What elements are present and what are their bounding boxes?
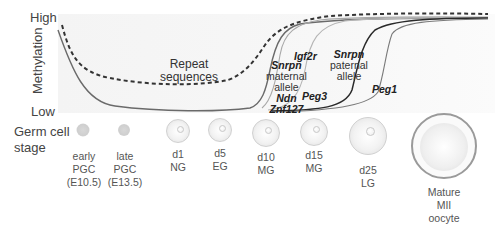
- cell-early-pgc: [77, 124, 90, 137]
- stage-line1: Mature: [428, 186, 461, 199]
- stage-label-d15: d15 MG: [305, 149, 323, 175]
- label-repeat-line2: sequences: [160, 71, 218, 84]
- stage-line2: MG: [305, 162, 323, 175]
- label-snrpn-paternal-line3: allele: [330, 71, 368, 82]
- label-peg1: Peg1: [372, 84, 397, 95]
- stage-line1: d5: [212, 147, 227, 160]
- label-peg3: Peg3: [302, 91, 327, 102]
- cell-late-pgc: [118, 124, 130, 136]
- stage-label-d25: d25 LG: [359, 164, 377, 190]
- label-snrpn-maternal: Snrpn maternal allele Ndn Znf127: [266, 60, 307, 115]
- cell-d1-ng: [166, 119, 190, 143]
- label-repeat-sequences: Repeat sequences: [160, 58, 218, 84]
- stage-title-line2: stage: [14, 140, 70, 156]
- stage-line3: oocyte: [428, 212, 461, 225]
- stage-line2: LG: [359, 177, 377, 190]
- nucleus-icon: [366, 127, 375, 136]
- cell-d15-mg: [300, 118, 328, 146]
- stage-line1: late: [108, 150, 142, 163]
- stage-label-early-pgc: early PGC (E10.5): [67, 150, 101, 189]
- stage-line2: MG: [257, 164, 275, 177]
- cell-d25-lg: [349, 117, 387, 155]
- stage-label-late-pgc: late PGC (E13.5): [108, 150, 142, 189]
- methylation-curves: [0, 0, 495, 232]
- nucleus-icon: [313, 126, 320, 133]
- stage-line3: (E13.5): [108, 176, 142, 189]
- stage-line1: d10: [257, 151, 275, 164]
- nucleus-icon: [177, 126, 184, 133]
- stage-label-mature-mii: Mature MII oocyte: [428, 186, 461, 225]
- stage-line1: early: [67, 150, 101, 163]
- label-znf127: Znf127: [266, 104, 307, 115]
- nucleus-icon: [265, 127, 272, 134]
- stage-line2: PGC: [67, 163, 101, 176]
- label-snrpn-paternal: Snrpn paternal allele: [330, 49, 368, 82]
- stage-label-d10: d10 MG: [257, 151, 275, 177]
- stage-line3: (E10.5): [67, 176, 101, 189]
- nucleus-icon: [219, 125, 226, 132]
- label-igf2r: Igf2r: [294, 51, 317, 62]
- mii-oocyte-cytoplasm: [420, 123, 468, 171]
- cell-d5-eg: [208, 118, 232, 142]
- stage-line1: d1: [170, 148, 186, 161]
- cell-d10-mg: [252, 119, 280, 147]
- stage-label-d5: d5 EG: [212, 147, 227, 173]
- stage-line2: EG: [212, 160, 227, 173]
- stage-label-d1: d1 NG: [170, 148, 186, 174]
- stage-line2: PGC: [108, 163, 142, 176]
- germ-cell-stage-title: Germ cell stage: [14, 124, 70, 156]
- stage-line2: NG: [170, 161, 186, 174]
- stage-line2: MII: [428, 199, 461, 212]
- stage-title-line1: Germ cell: [14, 124, 70, 140]
- stage-line1: d25: [359, 164, 377, 177]
- stage-line1: d15: [305, 149, 323, 162]
